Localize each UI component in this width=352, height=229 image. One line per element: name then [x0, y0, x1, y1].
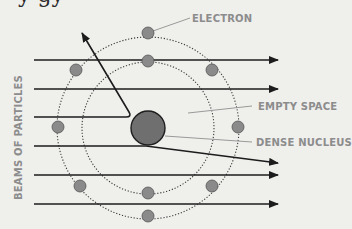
empty-space-leader-line: [188, 106, 252, 113]
dense-nucleus-label: DENSE NUCLEUS: [256, 137, 352, 148]
dense-nucleus: [131, 111, 165, 145]
empty-space-label: EMPTY SPACE: [258, 101, 337, 112]
electron: [74, 180, 86, 192]
electron: [142, 187, 154, 199]
electron: [206, 64, 218, 76]
electron: [142, 210, 154, 222]
electron: [142, 55, 154, 67]
deflected-particle-beam: [34, 146, 278, 163]
electron-leader-line: [153, 18, 190, 31]
reflected-particle-beam: [34, 33, 130, 117]
electron: [142, 27, 154, 39]
electron-label: ELECTRON: [192, 13, 252, 24]
electron: [52, 121, 64, 133]
top-text-fragment: y gy: [17, 0, 65, 7]
electron: [70, 64, 82, 76]
electron: [206, 180, 218, 192]
electron: [232, 121, 244, 133]
rutherford-scattering-diagram: y gy ELECTRON EMPTY SPACE DENSE NUCLEUS …: [0, 0, 352, 229]
beams-of-particles-label: BEAMS OF PARTICLES: [13, 75, 24, 200]
